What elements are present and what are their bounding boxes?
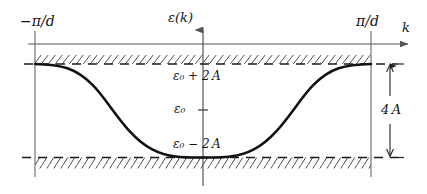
- k-axis-label: k: [402, 21, 410, 34]
- left-zone-boundary-label: −π/d: [20, 14, 55, 28]
- energy-band-plot: [0, 0, 427, 194]
- energy-axis-label: ε(k): [168, 11, 193, 24]
- lower-band-edge-label: ε₀ − 2 A: [173, 138, 221, 150]
- right-zone-boundary-label: π/d: [356, 14, 379, 28]
- band-center-label: ε₀: [174, 103, 185, 115]
- bandwidth-label: 4 A: [381, 103, 401, 116]
- energy-band-figure: −π/d π/d k ε(k) ε₀ + 2 A ε₀ ε₀ − 2 A 4 A: [0, 0, 427, 194]
- upper-band-edge-label: ε₀ + 2 A: [173, 70, 221, 82]
